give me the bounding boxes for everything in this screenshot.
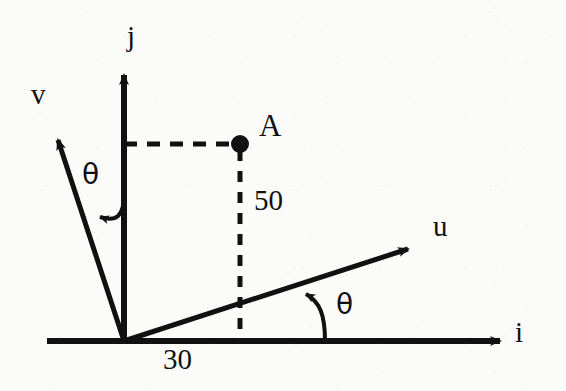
value-label-y-projection: 50 <box>254 186 283 215</box>
angle-arc-upper <box>100 194 124 219</box>
axis-u-line <box>124 249 408 341</box>
point-a-marker <box>231 135 249 153</box>
angle-label-theta-upper: θ <box>82 161 99 189</box>
axis-label-j: j <box>127 22 135 51</box>
diagram-canvas: j v u i θ θ A 50 30 <box>0 0 566 391</box>
diagram-vector-layer <box>0 0 566 391</box>
point-label-a: A <box>259 110 281 141</box>
axis-label-v: v <box>31 80 46 109</box>
axis-label-i: i <box>515 318 523 347</box>
value-label-x-projection: 30 <box>163 345 192 374</box>
angle-label-theta-lower: θ <box>336 291 353 319</box>
axis-label-u: u <box>433 212 448 241</box>
angle-arc-lower <box>306 294 325 341</box>
